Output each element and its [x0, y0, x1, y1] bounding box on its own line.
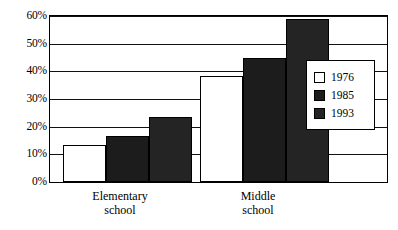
y-tick-label: 20%	[3, 121, 47, 133]
legend-label: 1993	[331, 107, 354, 119]
x-category-line1: Elementary	[92, 189, 147, 203]
legend-item-1976: 1976	[314, 69, 368, 85]
y-tick-label: 10%	[3, 148, 47, 160]
legend-item-1993: 1993	[314, 105, 368, 121]
legend-label: 1976	[331, 71, 354, 83]
x-category-elementary: Elementary school	[70, 190, 170, 217]
legend: 1976 1985 1993	[306, 60, 375, 130]
dark-square-swatch-icon	[314, 108, 325, 119]
bar-middle-1985	[243, 58, 286, 182]
y-tick-label: 30%	[3, 93, 47, 105]
bar-elementary-1993	[149, 117, 192, 182]
bar-chart: 60% 50% 40% 30% 20% 10% 0% Elementary sc…	[0, 0, 398, 230]
legend-item-1985: 1985	[314, 87, 368, 103]
x-category-line1: Middle	[241, 189, 276, 203]
white-square-swatch-icon	[314, 72, 325, 83]
y-tick-label: 40%	[3, 65, 47, 77]
legend-label: 1985	[331, 89, 354, 101]
x-category-line2: school	[208, 204, 308, 218]
y-axis: 60% 50% 40% 30% 20% 10% 0%	[0, 0, 47, 230]
y-tick-label: 0%	[3, 176, 47, 188]
x-category-line2: school	[70, 204, 170, 218]
dark-square-swatch-icon	[314, 90, 325, 101]
y-tick-label: 60%	[3, 10, 47, 22]
bar-elementary-1985	[106, 136, 149, 182]
bar-middle-1976	[200, 76, 243, 182]
y-tick-label: 50%	[3, 38, 47, 50]
x-category-middle: Middle school	[208, 190, 308, 217]
bar-elementary-1976	[63, 145, 106, 182]
